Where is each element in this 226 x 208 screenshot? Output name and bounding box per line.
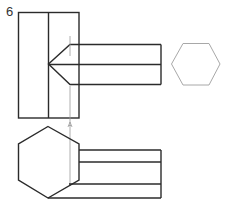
orthographic-drawing: [0, 0, 226, 208]
projection-line: [68, 36, 72, 186]
hex-bar-side-view: [49, 45, 162, 85]
plan-view: [19, 127, 162, 199]
end-view-hexagon: [172, 44, 221, 86]
